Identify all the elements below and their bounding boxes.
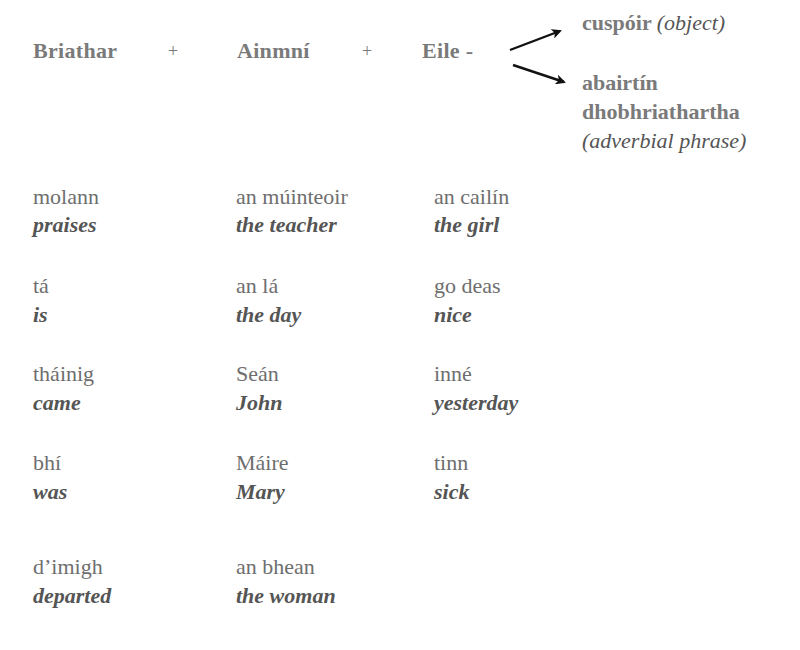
arrow-up-icon bbox=[510, 31, 560, 50]
branch-arrows-icon bbox=[500, 20, 580, 95]
row-1-verb-irish: molann bbox=[33, 184, 99, 210]
row-2-subject-irish: an lá bbox=[236, 273, 278, 299]
header-verb: Briathar bbox=[33, 38, 117, 64]
row-3-verb-english: came bbox=[33, 390, 81, 416]
row-4-verb-irish: bhí bbox=[33, 450, 61, 476]
row-1-subject-irish: an múinteoir bbox=[236, 184, 348, 210]
row-5-verb-irish: d’imigh bbox=[33, 554, 103, 580]
arrow-down-icon bbox=[513, 65, 564, 82]
row-4-subject-irish: Máire bbox=[236, 450, 289, 476]
row-4-subject-english: Mary bbox=[236, 479, 285, 505]
row-5-subject-english: the woman bbox=[236, 583, 336, 609]
row-3-subject-english: John bbox=[236, 390, 282, 416]
row-3-other-irish: inné bbox=[434, 361, 472, 387]
row-2-other-irish: go deas bbox=[434, 273, 501, 299]
branch-object-label: cuspóir (object) bbox=[582, 10, 725, 36]
row-1-other-english: the girl bbox=[434, 212, 499, 238]
row-2-other-english: nice bbox=[434, 302, 472, 328]
header-plus-2: + bbox=[362, 41, 372, 62]
header-subject: Ainmní bbox=[237, 38, 310, 64]
row-5-verb-english: departed bbox=[33, 583, 111, 609]
row-1-verb-english: praises bbox=[33, 212, 97, 238]
row-2-subject-english: the day bbox=[236, 302, 301, 328]
header-plus-1: + bbox=[168, 41, 178, 62]
row-5-subject-irish: an bhean bbox=[236, 554, 315, 580]
row-3-verb-irish: tháinig bbox=[33, 361, 94, 387]
row-4-other-irish: tinn bbox=[434, 450, 468, 476]
row-1-other-irish: an cailín bbox=[434, 184, 509, 210]
branch-object-irish: cuspóir bbox=[582, 10, 651, 35]
branch-adverbial-irish-1: abairtín bbox=[582, 70, 658, 96]
branch-adverbial-english-text: (adverbial phrase) bbox=[582, 128, 746, 153]
row-2-verb-english: is bbox=[33, 302, 48, 328]
row-4-other-english: sick bbox=[434, 479, 469, 505]
row-3-other-english: yesterday bbox=[434, 390, 518, 416]
header-other: Eile - bbox=[422, 38, 473, 64]
branch-object-english: (object) bbox=[657, 10, 725, 35]
branch-adverbial-english: (adverbial phrase) bbox=[582, 128, 746, 154]
row-3-subject-irish: Seán bbox=[236, 361, 279, 387]
row-4-verb-english: was bbox=[33, 479, 67, 505]
row-2-verb-irish: tá bbox=[33, 273, 49, 299]
branch-adverbial-irish-2: dhobhriathartha bbox=[582, 99, 740, 125]
row-1-subject-english: the teacher bbox=[236, 212, 337, 238]
